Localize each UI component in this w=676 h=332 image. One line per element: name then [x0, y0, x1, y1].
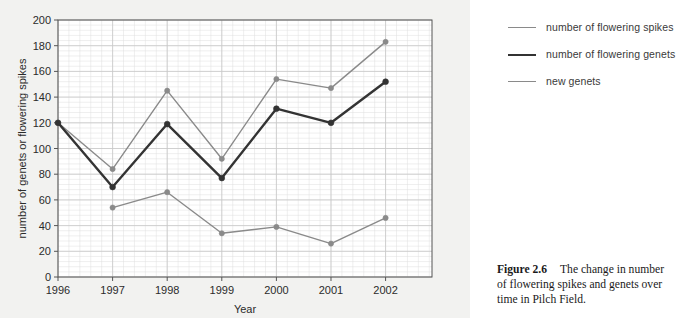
- svg-text:20: 20: [39, 245, 51, 257]
- figure-caption-label: Figure 2.6: [497, 263, 547, 276]
- svg-text:160: 160: [33, 65, 51, 77]
- data-point: [165, 88, 170, 93]
- svg-text:1998: 1998: [155, 284, 179, 296]
- svg-text:0: 0: [45, 271, 51, 283]
- data-point: [328, 120, 334, 126]
- data-point: [219, 156, 224, 161]
- legend-line-icon-genets: [508, 47, 536, 61]
- data-point: [165, 190, 170, 195]
- chart-legend: number of flowering spikes number of flo…: [508, 16, 674, 97]
- legend-line-icon-new-genets: [508, 74, 536, 88]
- data-point: [383, 39, 388, 44]
- data-point: [164, 121, 170, 127]
- line-chart: 0204060801001201401601802001996199719981…: [0, 0, 470, 318]
- data-point: [383, 215, 388, 220]
- svg-text:1997: 1997: [100, 284, 124, 296]
- svg-text:2000: 2000: [264, 284, 288, 296]
- svg-text:100: 100: [33, 143, 51, 155]
- legend-label-genets: number of flowering genets: [546, 48, 675, 60]
- svg-text:2001: 2001: [319, 284, 343, 296]
- data-point: [110, 166, 115, 171]
- data-point: [219, 175, 225, 181]
- svg-text:2002: 2002: [373, 284, 397, 296]
- svg-text:140: 140: [33, 91, 51, 103]
- data-point: [383, 79, 389, 85]
- legend-item-genets: number of flowering genets: [508, 43, 674, 64]
- svg-text:60: 60: [39, 194, 51, 206]
- svg-text:1996: 1996: [46, 284, 70, 296]
- data-point: [328, 86, 333, 91]
- data-point: [219, 231, 224, 236]
- svg-text:120: 120: [33, 117, 51, 129]
- x-axis-title: Year: [234, 303, 257, 315]
- data-point: [274, 77, 279, 82]
- legend-label-new-genets: new genets: [546, 75, 601, 87]
- svg-text:180: 180: [33, 40, 51, 52]
- legend-line-icon-spikes: [508, 20, 536, 34]
- y-axis-title: number of genets or flowering spikes: [16, 58, 28, 238]
- data-point: [55, 120, 61, 126]
- data-point: [274, 224, 279, 229]
- svg-text:40: 40: [39, 220, 51, 232]
- data-point: [328, 241, 333, 246]
- figure-caption: Figure 2.6The change in number of flower…: [497, 262, 673, 308]
- svg-text:80: 80: [39, 168, 51, 180]
- legend-item-spikes: number of flowering spikes: [508, 16, 674, 37]
- legend-label-spikes: number of flowering spikes: [546, 21, 674, 33]
- svg-text:200: 200: [33, 14, 51, 26]
- data-point: [110, 205, 115, 210]
- chart-panel: 0204060801001201401601802001996199719981…: [0, 0, 470, 318]
- data-point: [273, 106, 279, 112]
- legend-item-new-genets: new genets: [508, 70, 674, 91]
- svg-text:1999: 1999: [210, 284, 234, 296]
- data-point: [110, 184, 116, 190]
- figure-container: 0204060801001201401601802001996199719981…: [0, 0, 676, 332]
